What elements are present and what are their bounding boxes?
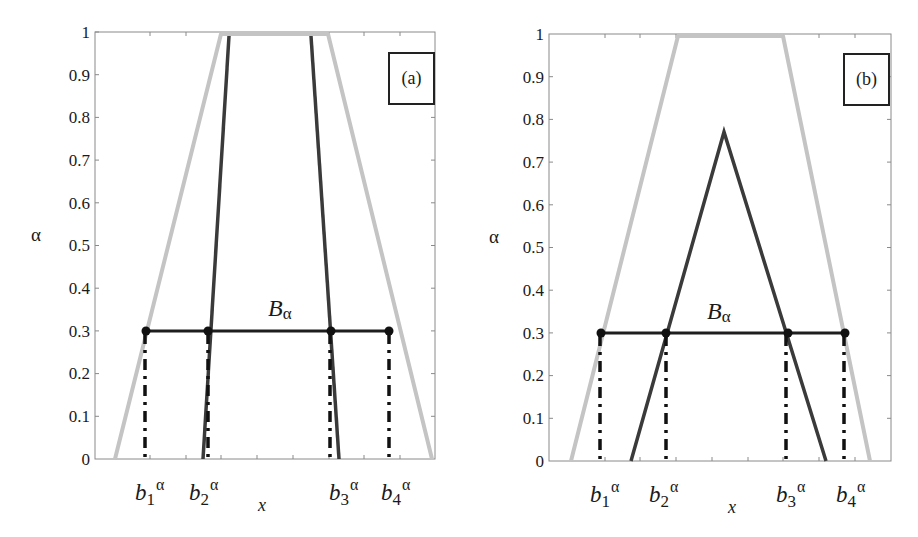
set-label-b-alpha: Bα (707, 298, 731, 327)
ytick-label: 0.5 (504, 239, 544, 256)
plot-b-canvas (0, 0, 918, 537)
ytick-label: 0.8 (504, 111, 544, 128)
y-axis-label: α (489, 226, 499, 248)
b3-label: b3α (776, 478, 805, 512)
b4-label: b4α (836, 478, 865, 512)
panel-tag-text: (b) (856, 69, 877, 90)
outer-membership-curve (571, 36, 870, 461)
ytick-label: 0.4 (504, 282, 544, 299)
ytick-label: 0.6 (504, 197, 544, 214)
ytick-label: 0.3 (504, 325, 544, 342)
ytick-label: 0 (504, 453, 544, 470)
ytick-label: 0.7 (504, 154, 544, 171)
b2-label: b2α (649, 478, 678, 512)
panel-tag-b: (b) (843, 53, 890, 106)
inner-membership-triangle (631, 132, 826, 461)
x-ticks (605, 34, 855, 461)
ytick-label: 0.9 (504, 69, 544, 86)
ytick-label: 1 (504, 26, 544, 43)
x-axis-label: x (728, 497, 736, 518)
ytick-label: 0.1 (504, 410, 544, 427)
b1-label: b1α (590, 478, 619, 512)
panel-b: α 1 0.9 0.8 0.7 0.6 0.5 0.4 0.3 0.2 0.1 … (0, 0, 918, 537)
ytick-label: 0.2 (504, 367, 544, 384)
